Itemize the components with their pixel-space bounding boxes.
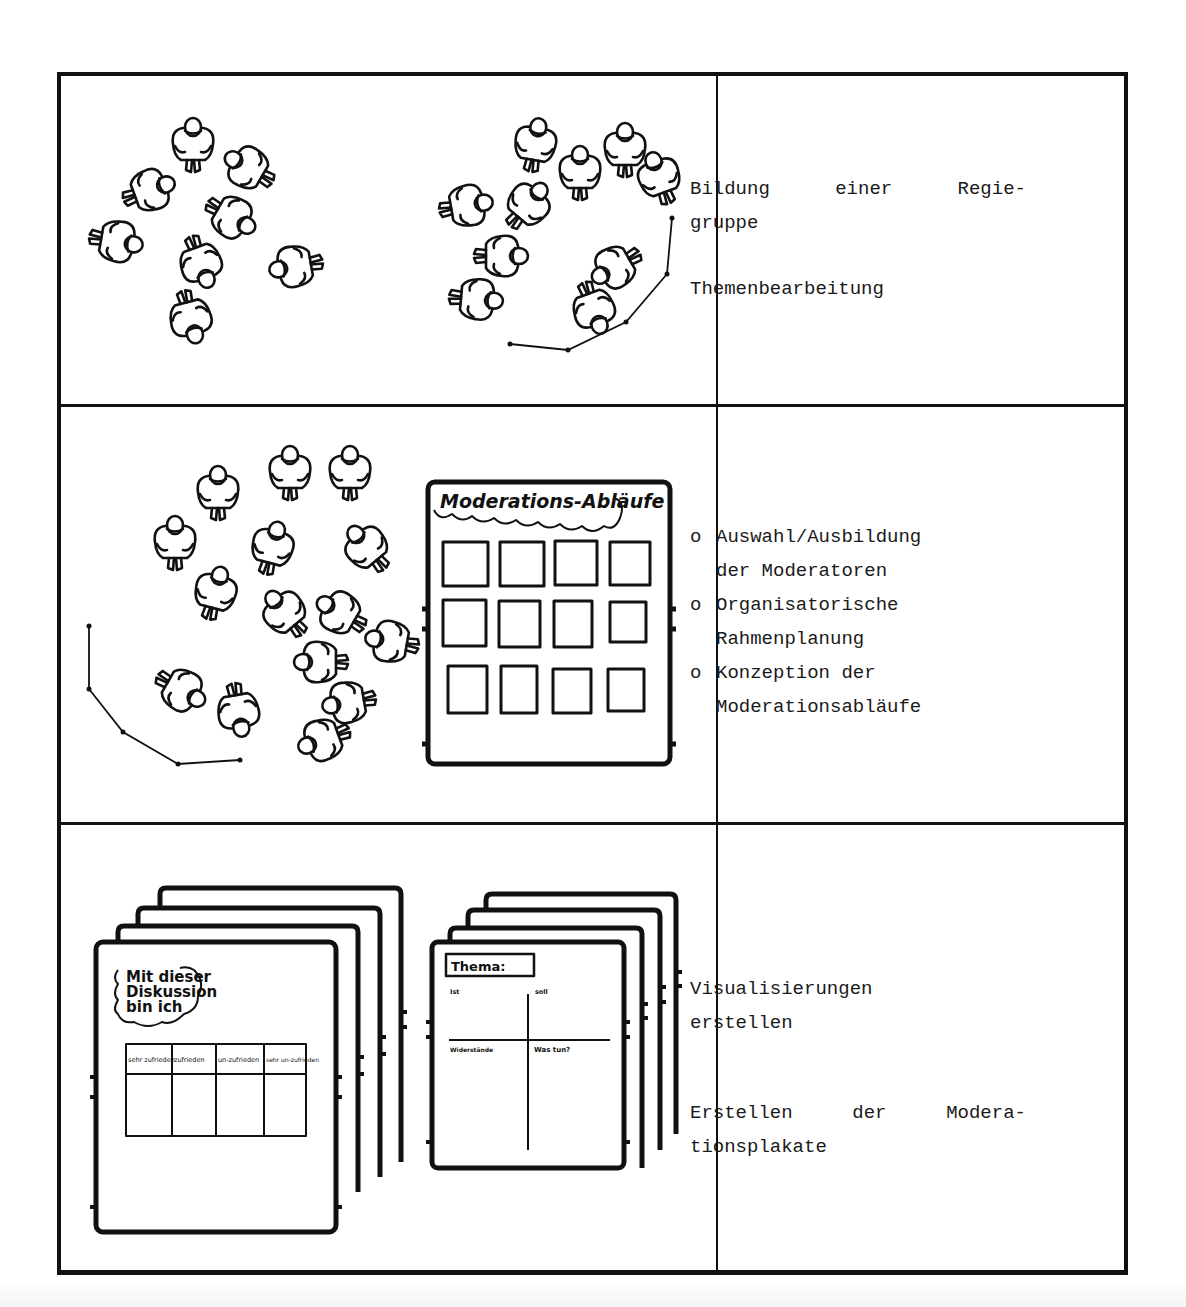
row3-block2-line1: Erstellen der Modera- [690, 1096, 1026, 1130]
row3-illustration: Mit dieser Diskussion bin ich sehr zufri… [60, 822, 710, 1267]
poster-stack-right-icon [426, 894, 682, 1168]
svg-text:zufrieden: zufrieden [174, 1056, 205, 1064]
row1-text: Bildung einer Regie- gruppe Themenbearbe… [690, 172, 1040, 306]
row3-block1-line1: Visualisierungen [690, 972, 1040, 1006]
svg-text:soll: soll [535, 988, 548, 996]
svg-text:un-zufrieden: un-zufrieden [218, 1056, 259, 1064]
scan-edge [0, 1281, 1186, 1307]
row1-line2: gruppe [690, 206, 1040, 240]
svg-text:Was tun?: Was tun? [534, 1046, 570, 1054]
bullet-item: o Auswahl/Ausbildung der Moderatoren [690, 520, 1040, 588]
svg-text:bin ich: bin ich [126, 998, 183, 1016]
row3-block1-line2: erstellen [690, 1006, 1040, 1040]
row3-text: Visualisierungen erstellen Erstellen der… [690, 972, 1040, 1164]
moderation-board-icon: Moderations-Abläufe [422, 482, 676, 764]
svg-text:Thema:: Thema: [451, 959, 505, 974]
bullet-item: o Organisatorische Rahmenplanung [690, 588, 1040, 656]
svg-text:sehr un-zufrieden: sehr un-zufrieden [266, 1056, 319, 1063]
svg-text:Widerstände: Widerstände [450, 1046, 493, 1053]
people-group-right-icon [436, 115, 688, 353]
row1-line3: Themenbearbeitung [690, 272, 1040, 306]
row2-text: o Auswahl/Ausbildung der Moderatoren o O… [690, 520, 1040, 724]
participants-group-icon [87, 446, 423, 768]
people-group-left-icon [86, 118, 326, 348]
row2-illustration: Moderations-Abläufe [60, 404, 710, 818]
svg-text:Moderations-Abläufe: Moderations-Abläufe [440, 490, 664, 512]
svg-text:Ist: Ist [450, 988, 459, 996]
document-page: Bildung einer Regie- gruppe Themenbearbe… [0, 0, 1186, 1307]
bullet-item: o Konzeption der Moderationsabläufe [690, 656, 1040, 724]
svg-text:sehr zufrieden: sehr zufrieden [128, 1056, 175, 1064]
row1-illustration [60, 76, 710, 398]
row3-block2-line2: tionsplakate [690, 1130, 1040, 1164]
row1-line1: Bildung einer Regie- [690, 172, 1026, 206]
